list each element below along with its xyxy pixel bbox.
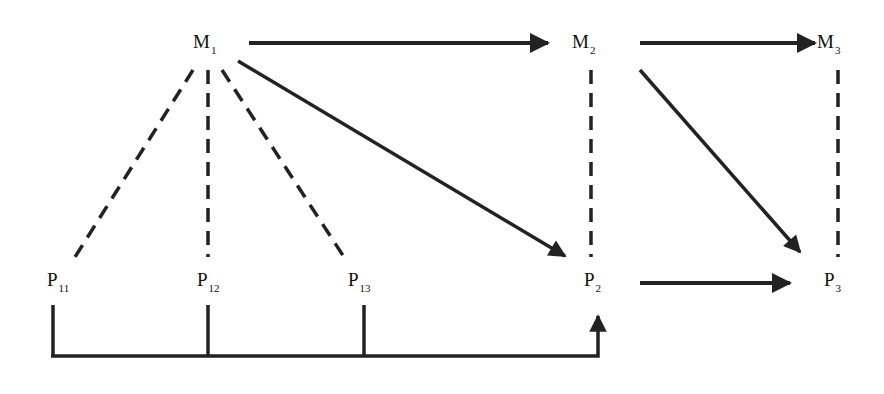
node-p2-sub: 2 xyxy=(596,282,602,294)
node-m2: M2 xyxy=(572,32,595,51)
edge-m1-p11-dashed xyxy=(75,70,193,257)
node-p13-base: P xyxy=(348,269,359,290)
node-m1-sub: 1 xyxy=(211,44,217,56)
node-p13: P13 xyxy=(348,270,371,289)
node-p12-sub: 12 xyxy=(209,282,220,294)
node-m2-base: M xyxy=(572,31,589,52)
node-m1: M1 xyxy=(193,32,216,51)
node-m3-sub: 3 xyxy=(835,44,841,56)
edge-m1-p13-dashed xyxy=(222,70,344,257)
node-p2: P2 xyxy=(584,270,601,289)
node-p13-sub: 13 xyxy=(360,282,371,294)
node-p3-sub: 3 xyxy=(836,282,842,294)
node-p11: P11 xyxy=(47,270,69,289)
bracket-to-p2 xyxy=(51,316,598,356)
node-m1-base: M xyxy=(193,31,210,52)
node-p11-sub: 11 xyxy=(59,282,70,294)
node-p3-base: P xyxy=(824,269,835,290)
node-m3-base: M xyxy=(817,31,834,52)
node-p12-base: P xyxy=(197,269,208,290)
edge-m2-p3 xyxy=(640,70,800,252)
node-p11-base: P xyxy=(47,269,58,290)
diagram-canvas: M1 M2 M3 P11 P12 P13 P2 P3 xyxy=(0,0,884,394)
node-p12: P12 xyxy=(197,270,220,289)
node-m3: M3 xyxy=(817,32,840,51)
edge-m1-p2 xyxy=(238,61,565,256)
node-p2-base: P xyxy=(584,269,595,290)
diagram-svg xyxy=(0,0,884,394)
node-p3: P3 xyxy=(824,270,841,289)
node-m2-sub: 2 xyxy=(590,44,596,56)
